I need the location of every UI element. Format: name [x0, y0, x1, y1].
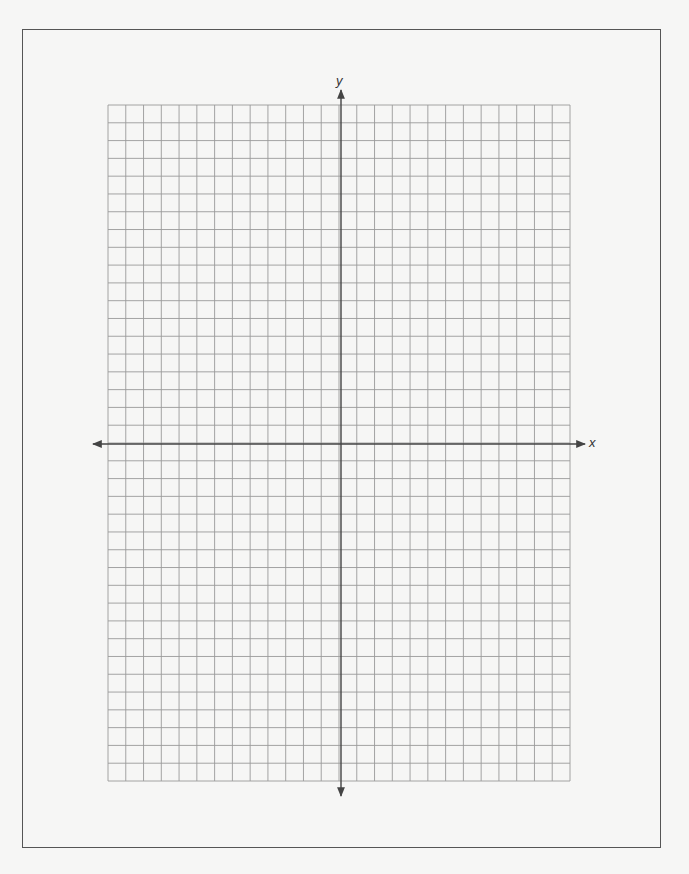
x-axis-label: x [589, 436, 596, 449]
y-axis-label: y [336, 74, 343, 87]
grid-lines [108, 105, 570, 781]
coordinate-plane [0, 0, 689, 874]
